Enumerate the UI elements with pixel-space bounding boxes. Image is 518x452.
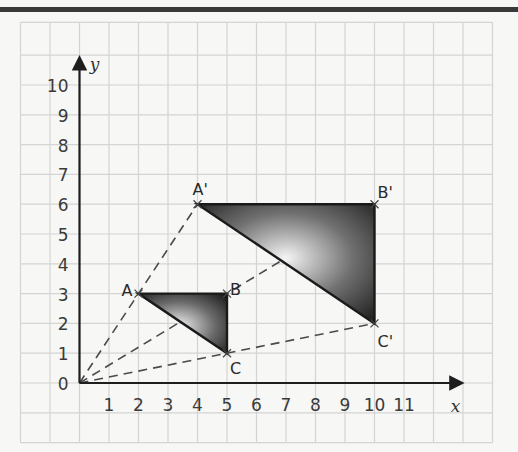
x-tick-label: 8 — [310, 395, 321, 415]
point-label-c-prime: C' — [378, 332, 394, 351]
point-label-b-prime: B' — [378, 183, 393, 202]
x-tick-label: 9 — [340, 395, 351, 415]
x-tick-label: 4 — [192, 395, 203, 415]
y-tick-label: 10 — [47, 76, 69, 96]
y-tick-label: 0 — [58, 374, 69, 394]
point-label-b: B — [230, 280, 241, 299]
x-tick-label: 1 — [104, 395, 115, 415]
y-tick-label: 5 — [58, 225, 69, 245]
point-label-c: C — [230, 359, 241, 378]
y-tick-label: 1 — [58, 344, 69, 364]
x-axis-label: x — [451, 396, 461, 416]
x-tick-label: 11 — [393, 395, 415, 415]
coordinate-grid-diagram: 1234567891011012345678910xyABCA'B'C' — [0, 0, 518, 452]
point-label-a: A — [122, 281, 133, 300]
y-tick-label: 6 — [58, 195, 69, 215]
y-tick-label: 9 — [58, 106, 69, 126]
x-tick-label: 2 — [133, 395, 144, 415]
y-tick-label: 2 — [58, 314, 69, 334]
x-tick-label: 5 — [222, 395, 233, 415]
y-axis-label: y — [89, 54, 100, 74]
x-tick-label: 10 — [364, 395, 386, 415]
y-tick-label: 3 — [58, 285, 69, 305]
x-tick-label: 7 — [281, 395, 292, 415]
y-tick-label: 4 — [58, 255, 69, 275]
y-tick-label: 8 — [58, 136, 69, 156]
x-tick-label: 3 — [163, 395, 174, 415]
y-tick-label: 7 — [58, 165, 69, 185]
point-label-a-prime: A' — [193, 180, 208, 199]
x-tick-label: 6 — [251, 395, 262, 415]
